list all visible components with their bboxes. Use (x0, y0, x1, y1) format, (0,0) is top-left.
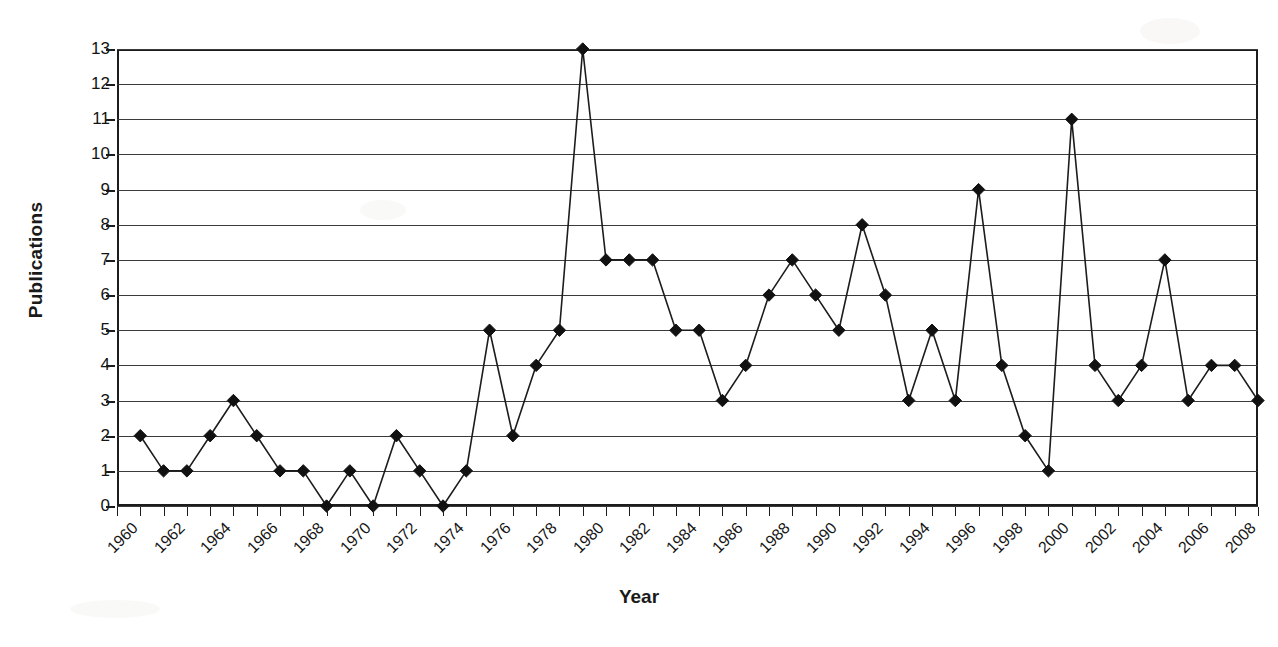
y-tick-mark-1 (106, 471, 115, 473)
x-axis-title: Year (0, 586, 1278, 608)
x-tick-mark-1976 (490, 507, 491, 516)
x-tick-mark-1970 (350, 507, 351, 516)
x-tick-label-1960: 1960 (104, 519, 142, 557)
gridline-9 (117, 190, 1258, 191)
x-tick-mark-1960 (117, 507, 118, 516)
x-tick-mark-1981 (606, 507, 607, 516)
x-tick-mark-1979 (559, 507, 560, 516)
y-tick-mark-5 (106, 330, 115, 332)
x-tick-mark-2009 (1258, 507, 1259, 516)
y-tick-label-1: 1 (70, 461, 110, 481)
x-tick-mark-1983 (653, 507, 654, 516)
x-tick-label-2006: 2006 (1175, 519, 1213, 557)
x-tick-label-1972: 1972 (383, 519, 421, 557)
x-tick-mark-1980 (583, 507, 584, 516)
x-tick-mark-1978 (536, 507, 537, 516)
y-tick-mark-12 (106, 84, 115, 86)
x-axis-title-label: Year (619, 586, 659, 607)
x-tick-label-2002: 2002 (1082, 519, 1120, 557)
gridline-7 (117, 260, 1258, 261)
x-tick-mark-1987 (746, 507, 747, 516)
x-tick-mark-1988 (769, 507, 770, 516)
x-tick-mark-2000 (1048, 507, 1049, 516)
x-tick-mark-1962 (164, 507, 165, 516)
x-tick-label-1996: 1996 (942, 519, 980, 557)
y-tick-label-7: 7 (70, 250, 110, 270)
y-axis-title-label: Publications (25, 202, 47, 319)
x-axis-ticks (117, 507, 1258, 519)
plot-frame (117, 49, 1258, 506)
gridline-8 (117, 225, 1258, 226)
x-tick-mark-1969 (327, 507, 328, 516)
x-tick-label-1966: 1966 (244, 519, 282, 557)
x-tick-mark-1972 (396, 507, 397, 516)
x-axis-tick-labels: 1960196219641966196819701972197419761978… (117, 519, 1258, 589)
y-tick-label-2: 2 (70, 426, 110, 446)
y-tick-label-4: 4 (70, 355, 110, 375)
y-tick-mark-3 (106, 401, 115, 403)
x-tick-mark-1967 (280, 507, 281, 516)
x-tick-label-1982: 1982 (616, 519, 654, 557)
x-tick-label-1980: 1980 (570, 519, 608, 557)
x-tick-mark-1975 (466, 507, 467, 516)
y-tick-mark-2 (106, 436, 115, 438)
x-tick-mark-1996 (955, 507, 956, 516)
y-tick-mark-4 (106, 365, 115, 367)
y-tick-mark-9 (106, 190, 115, 192)
y-tick-mark-13 (106, 49, 115, 51)
x-tick-label-1964: 1964 (197, 519, 235, 557)
x-tick-mark-1965 (233, 507, 234, 516)
x-tick-mark-1999 (1025, 507, 1026, 516)
gridline-10 (117, 154, 1258, 155)
x-tick-label-1962: 1962 (150, 519, 188, 557)
y-tick-label-11: 11 (70, 109, 110, 129)
x-tick-label-2008: 2008 (1222, 519, 1260, 557)
x-tick-label-2000: 2000 (1035, 519, 1073, 557)
y-tick-label-3: 3 (70, 391, 110, 411)
x-tick-mark-1994 (909, 507, 910, 516)
gridline-11 (117, 119, 1258, 120)
x-tick-mark-1984 (676, 507, 677, 516)
x-tick-mark-1971 (373, 507, 374, 516)
x-tick-label-1998: 1998 (989, 519, 1027, 557)
y-tick-label-12: 12 (70, 74, 110, 94)
x-tick-mark-1986 (722, 507, 723, 516)
x-tick-mark-2006 (1188, 507, 1189, 516)
y-tick-mark-6 (106, 295, 115, 297)
gridline-1 (117, 471, 1258, 472)
gridline-12 (117, 84, 1258, 85)
x-tick-label-1988: 1988 (756, 519, 794, 557)
y-tick-mark-8 (106, 225, 115, 227)
y-tick-label-0: 0 (70, 496, 110, 516)
x-tick-label-1978: 1978 (523, 519, 561, 557)
x-tick-mark-1966 (257, 507, 258, 516)
x-tick-label-1992: 1992 (849, 519, 887, 557)
y-axis-title: Publications (6, 0, 66, 520)
x-tick-mark-1997 (979, 507, 980, 516)
x-tick-mark-1973 (420, 507, 421, 516)
x-tick-mark-1982 (629, 507, 630, 516)
y-tick-mark-10 (106, 154, 115, 156)
x-tick-mark-1998 (1002, 507, 1003, 516)
x-tick-mark-1991 (839, 507, 840, 516)
x-tick-mark-2001 (1072, 507, 1073, 516)
x-tick-mark-1995 (932, 507, 933, 516)
gridline-6 (117, 295, 1258, 296)
x-tick-mark-1963 (187, 507, 188, 516)
y-tick-label-9: 9 (70, 180, 110, 200)
y-tick-label-13: 13 (70, 39, 110, 59)
gridline-4 (117, 365, 1258, 366)
x-tick-label-1976: 1976 (476, 519, 514, 557)
x-tick-mark-1990 (816, 507, 817, 516)
x-tick-label-1990: 1990 (802, 519, 840, 557)
x-tick-mark-2005 (1165, 507, 1166, 516)
y-tick-label-10: 10 (70, 144, 110, 164)
y-axis-ticks: 012345678910111213 (62, 49, 110, 506)
gridline-2 (117, 436, 1258, 437)
x-tick-label-1968: 1968 (290, 519, 328, 557)
x-tick-mark-1977 (513, 507, 514, 516)
y-tick-label-6: 6 (70, 285, 110, 305)
y-tick-label-8: 8 (70, 215, 110, 235)
publications-per-year-line-chart: Publications 012345678910111213 19601962… (0, 0, 1278, 647)
x-tick-label-1984: 1984 (663, 519, 701, 557)
